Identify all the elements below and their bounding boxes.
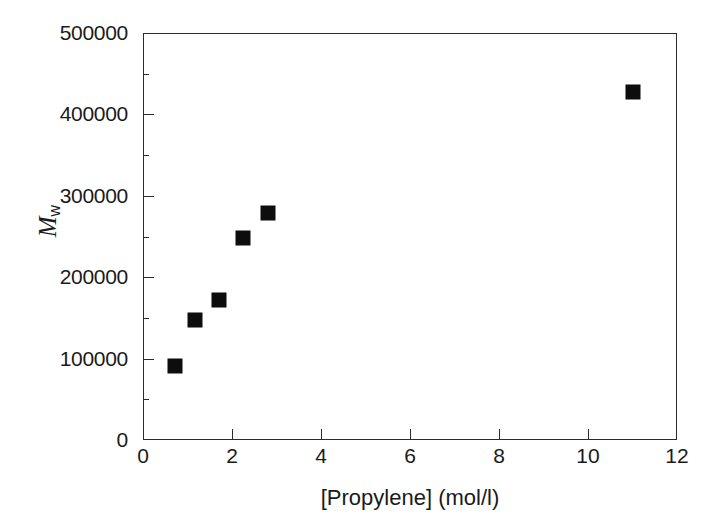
y-axis-tick-major [143, 196, 154, 197]
y-axis-tick-label: 100000 [0, 347, 128, 371]
x-axis-tick-major [321, 429, 322, 440]
x-axis-tick-label: 10 [576, 444, 599, 468]
y-axis-tick-minor [143, 318, 149, 319]
y-axis-tick-label: 0 [0, 428, 128, 452]
chart-figure: 0100000200000300000400000500000024681012… [0, 0, 711, 531]
x-axis-tick-label: 0 [137, 444, 149, 468]
y-axis-tick-label: 300000 [0, 184, 128, 208]
x-axis-tick-label: 6 [404, 444, 416, 468]
x-axis-tick-major [232, 429, 233, 440]
y-axis-tick-major [143, 359, 154, 360]
y-axis-subscript: w [46, 205, 63, 217]
x-axis-tick-major [588, 429, 589, 440]
plot-frame [143, 33, 677, 440]
y-axis-tick-minor [143, 399, 149, 400]
x-axis-tick-label: 2 [226, 444, 238, 468]
x-axis-tick-label: 4 [315, 444, 327, 468]
y-axis-tick-major [143, 277, 154, 278]
y-axis-symbol: M [34, 216, 61, 237]
x-axis-title: [Propylene] (mol/l) [143, 485, 677, 511]
y-axis-title: Mw [34, 166, 64, 276]
y-axis-tick-major [143, 114, 154, 115]
x-axis-tick-label: 12 [665, 444, 688, 468]
y-axis-tick-label: 200000 [0, 265, 128, 289]
x-axis-tick-label: 8 [493, 444, 505, 468]
y-axis-tick-minor [143, 155, 149, 156]
y-axis-tick-minor [143, 74, 149, 75]
y-axis-tick-minor [143, 237, 149, 238]
y-axis-tick-label: 400000 [0, 102, 128, 126]
x-axis-tick-major [499, 429, 500, 440]
x-axis-tick-major [410, 429, 411, 440]
y-axis-tick-label: 500000 [0, 21, 128, 45]
